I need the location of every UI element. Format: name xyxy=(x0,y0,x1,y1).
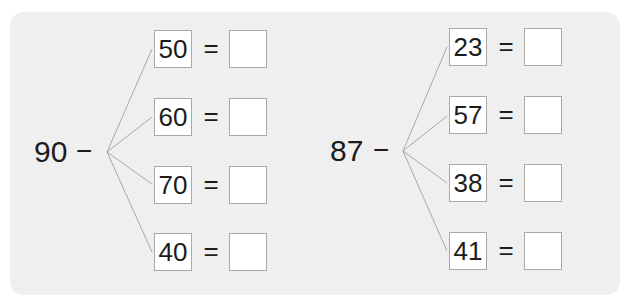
equals-sign: = xyxy=(495,28,517,64)
answer-box[interactable] xyxy=(524,96,562,134)
answer-box[interactable] xyxy=(524,28,562,66)
equals-sign: = xyxy=(495,232,517,268)
answer-box[interactable] xyxy=(524,164,562,202)
minuend: 87 xyxy=(330,134,363,168)
subtrahend-box: 41 xyxy=(449,232,487,270)
problem-group-2: 87 − 23 = 57 = 38 = 41 = xyxy=(0,0,629,305)
subtrahend-box: 23 xyxy=(449,28,487,66)
subtrahend-box: 57 xyxy=(449,96,487,134)
minus-sign: − xyxy=(373,133,389,167)
subtrahend-box: 38 xyxy=(449,164,487,202)
equals-sign: = xyxy=(495,96,517,132)
equals-sign: = xyxy=(495,164,517,200)
answer-box[interactable] xyxy=(524,232,562,270)
